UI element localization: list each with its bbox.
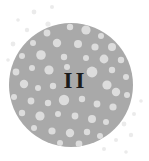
speckle-dot bbox=[84, 129, 90, 135]
speckled-disc-graphic bbox=[0, 0, 149, 161]
outer-speckle-dot bbox=[45, 21, 50, 26]
speckle-dot bbox=[94, 101, 101, 108]
speckle-dot bbox=[35, 111, 44, 120]
speckle-dot bbox=[108, 43, 116, 51]
speckle-dot bbox=[57, 140, 63, 146]
speckle-dot bbox=[11, 94, 17, 100]
speckle-dot bbox=[44, 30, 51, 37]
speckle-dot bbox=[98, 33, 104, 39]
speckle-dot bbox=[19, 53, 25, 59]
speckle-dot bbox=[48, 127, 55, 134]
speckle-dot bbox=[66, 129, 74, 137]
speckle-dot bbox=[28, 98, 35, 105]
outer-speckle-dot bbox=[139, 99, 143, 103]
outer-speckle-dot bbox=[102, 147, 106, 151]
speckle-dot bbox=[123, 74, 129, 80]
speckle-dot bbox=[109, 67, 115, 73]
speckle-dot bbox=[20, 80, 28, 88]
speckle-dot bbox=[64, 64, 70, 70]
outer-speckle-dot bbox=[32, 10, 37, 15]
speckle-dot bbox=[83, 55, 89, 61]
speckle-dot bbox=[55, 111, 61, 117]
speckle-dot bbox=[44, 65, 53, 74]
outer-speckle-dot bbox=[114, 138, 118, 142]
speckle-dot bbox=[31, 125, 37, 131]
speckle-dot bbox=[88, 115, 96, 123]
speckle-dot bbox=[30, 40, 36, 46]
outer-speckle-dot bbox=[11, 42, 16, 47]
speckle-dot bbox=[109, 103, 116, 110]
speckle-dot bbox=[74, 40, 82, 48]
speckle-dot bbox=[72, 113, 79, 120]
speckle-dot bbox=[118, 57, 124, 63]
outer-speckle-dot bbox=[16, 18, 20, 22]
speckle-dot bbox=[124, 92, 130, 98]
speckle-dot bbox=[29, 65, 35, 71]
speckle-dot bbox=[87, 67, 98, 78]
speckle-dot bbox=[97, 133, 103, 139]
speckle-dot bbox=[50, 83, 56, 89]
speckle-dot bbox=[36, 50, 46, 60]
outer-speckle-dot bbox=[124, 150, 128, 154]
speckle-dot bbox=[103, 119, 109, 125]
figure-canvas: II bbox=[0, 0, 149, 161]
speckle-dot bbox=[61, 54, 67, 60]
speckle-dot bbox=[67, 24, 73, 30]
outer-speckle-dot bbox=[50, 5, 54, 9]
speckle-dot bbox=[19, 110, 25, 116]
speckle-dot bbox=[35, 85, 41, 91]
outer-speckle-dot bbox=[25, 28, 29, 32]
speckle-dot bbox=[91, 43, 98, 50]
speckle-dot bbox=[45, 100, 51, 106]
speckle-dot bbox=[100, 55, 109, 64]
speckle-dot bbox=[81, 25, 90, 34]
speckle-dot bbox=[102, 80, 111, 89]
speckle-dot bbox=[79, 96, 85, 102]
speckle-dot bbox=[13, 69, 20, 76]
speckle-dot bbox=[112, 88, 120, 96]
speckle-dot bbox=[53, 39, 61, 47]
outer-speckle-dot bbox=[6, 58, 10, 62]
outer-speckle-dot bbox=[132, 112, 136, 116]
outer-speckle-dot bbox=[129, 133, 133, 137]
speckle-dot bbox=[59, 95, 69, 105]
outer-speckle-dot bbox=[122, 122, 127, 127]
